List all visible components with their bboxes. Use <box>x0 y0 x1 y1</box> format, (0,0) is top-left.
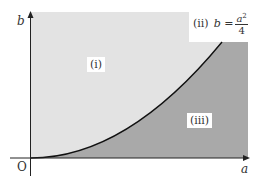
curve-id-label: (ii) <box>193 17 209 30</box>
region-iii-label: (iii) <box>187 113 212 128</box>
x-axis-label: a <box>241 162 248 176</box>
fraction-numerator-exp: 2 <box>242 12 246 20</box>
y-axis-label: b <box>17 14 25 28</box>
fraction-denominator: 4 <box>238 25 244 36</box>
curve-equation-label: (ii) b = a2 4 <box>193 11 248 36</box>
curve-equation-fraction: a2 4 <box>235 11 247 36</box>
origin-label: O <box>17 160 27 174</box>
curve-equation-lhs: b = <box>214 17 234 30</box>
region-i-label: (i) <box>87 57 105 72</box>
